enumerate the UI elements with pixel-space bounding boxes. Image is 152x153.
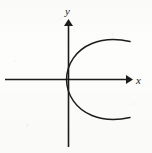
y-axis-arrowhead-icon xyxy=(64,19,73,26)
y-axis-label: y xyxy=(64,5,70,17)
parabola-figure: x y xyxy=(0,0,152,153)
x-axis-label: x xyxy=(135,74,141,86)
coordinate-plot-svg: x y xyxy=(0,0,152,153)
parabola-upper-branch xyxy=(67,40,131,80)
parabola-lower-branch xyxy=(67,80,131,120)
x-axis-arrowhead-icon xyxy=(126,75,133,84)
